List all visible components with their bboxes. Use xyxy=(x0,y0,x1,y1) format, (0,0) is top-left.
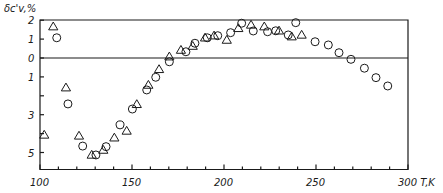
triangle-marker xyxy=(74,131,83,139)
y-tick-label: 2 xyxy=(28,15,34,26)
x-tick-label: 300 T,K xyxy=(398,177,436,188)
plot-border xyxy=(40,20,408,170)
circle-marker xyxy=(143,86,151,94)
circle-marker xyxy=(152,73,160,81)
circle-marker xyxy=(372,74,380,82)
y-tick-label: 5 xyxy=(28,148,34,159)
triangle-marker xyxy=(188,41,197,49)
circle-marker xyxy=(64,100,72,108)
x-tick-label: 150 xyxy=(122,177,141,188)
scatter-chart: δc'v,% 100150200250300 T,K210135 xyxy=(0,0,443,193)
circle-marker xyxy=(347,55,355,63)
axis-tick-labels: 100150200250300 T,K210135 xyxy=(28,15,436,188)
circle-marker xyxy=(384,82,392,90)
circle-marker xyxy=(335,49,343,57)
triangle-marker xyxy=(61,83,70,91)
triangle-marker xyxy=(144,80,153,88)
y-axis-title: δc'v,% xyxy=(4,3,36,14)
triangle-marker xyxy=(176,45,185,53)
circle-marker xyxy=(79,142,87,150)
series-circles xyxy=(53,19,392,159)
circle-marker xyxy=(182,48,190,56)
triangle-marker xyxy=(132,100,141,108)
circle-marker xyxy=(360,64,368,72)
circle-marker xyxy=(227,29,235,37)
triangle-marker xyxy=(154,65,163,73)
triangle-marker xyxy=(110,133,119,141)
triangle-marker xyxy=(49,22,58,30)
x-tick-label: 200 xyxy=(214,177,233,188)
y-tick-label: 1 xyxy=(28,72,34,83)
y-tick-label: 1 xyxy=(28,34,34,45)
triangle-marker xyxy=(40,130,49,138)
circle-marker xyxy=(116,121,124,129)
axis-ticks xyxy=(40,20,408,169)
series-triangles xyxy=(40,20,307,158)
circle-marker xyxy=(165,58,173,66)
circle-marker xyxy=(264,28,272,36)
x-tick-label: 250 xyxy=(306,177,325,188)
circle-marker xyxy=(324,41,332,49)
triangle-marker xyxy=(297,30,306,38)
circle-marker xyxy=(53,34,61,42)
x-tick-label: 100 xyxy=(30,177,49,188)
circle-marker xyxy=(311,38,319,46)
plot-frame xyxy=(40,20,408,170)
y-tick-label: 0 xyxy=(28,53,34,64)
triangle-marker xyxy=(260,22,269,30)
y-tick-label: 3 xyxy=(28,110,34,121)
